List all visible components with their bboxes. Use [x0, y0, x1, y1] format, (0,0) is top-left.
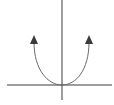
- parabola-diagram: [0, 0, 114, 105]
- graph-svg: [0, 0, 114, 105]
- background: [0, 0, 114, 105]
